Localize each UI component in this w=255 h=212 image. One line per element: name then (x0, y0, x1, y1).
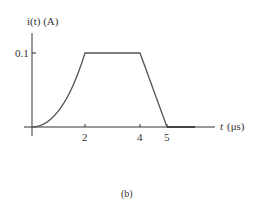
current-waveform-curve (32, 53, 167, 127)
y-axis-label: i(t) (A) (27, 15, 59, 28)
x-tick-label-5: 5 (164, 131, 170, 143)
x-axis-label-unit: (μs) (227, 120, 245, 133)
figure-caption: (b) (121, 188, 133, 200)
x-axis-label-t: t (220, 120, 224, 132)
current-waveform-chart: 0.1 2 4 5 i(t) (A) t (μs) (b) (0, 0, 255, 212)
y-tick-label-0-1: 0.1 (15, 47, 29, 59)
x-tick-label-2: 2 (82, 131, 88, 143)
x-tick-label-4: 4 (137, 131, 143, 143)
